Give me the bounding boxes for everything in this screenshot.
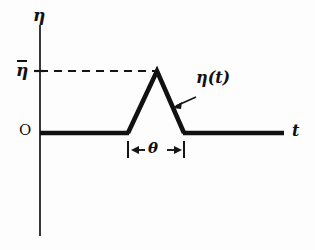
pulse-waveform-triangle <box>128 71 184 133</box>
diagram-svg <box>0 0 315 250</box>
figure-canvas: η η O t η(t) θ <box>0 0 315 250</box>
origin-label: O <box>19 123 31 138</box>
curve-label-eta-of-t: η(t) <box>196 70 230 86</box>
peak-value-label-eta-bar: η <box>16 60 28 79</box>
vertical-axis-label-eta: η <box>33 7 45 24</box>
peak-value-label-text: η <box>16 60 28 80</box>
overbar-decoration <box>17 60 27 62</box>
horizontal-axis-label-t: t <box>292 123 299 139</box>
duration-label-theta: θ <box>148 141 158 156</box>
eta-of-t-callout-arrow <box>172 97 196 109</box>
